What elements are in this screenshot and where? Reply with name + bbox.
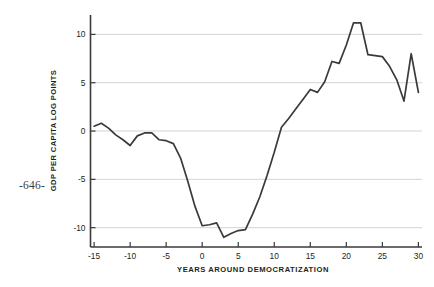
svg-text:0: 0 bbox=[200, 251, 205, 261]
gridlines bbox=[91, 34, 423, 227]
book-page: -646- GDP PER CAPITA LOG POINTS YEARS AR… bbox=[0, 0, 434, 287]
svg-text:-15: -15 bbox=[88, 251, 100, 261]
data-series-line bbox=[94, 23, 418, 238]
svg-text:25: 25 bbox=[378, 251, 388, 261]
y-axis-tick-labels: -10-50510 bbox=[73, 29, 85, 232]
svg-text:-5: -5 bbox=[162, 251, 170, 261]
svg-text:10: 10 bbox=[76, 29, 86, 39]
svg-text:30: 30 bbox=[414, 251, 424, 261]
svg-text:10: 10 bbox=[270, 251, 280, 261]
svg-text:15: 15 bbox=[306, 251, 316, 261]
x-axis-tick-labels: -15-10-5051015202530 bbox=[88, 251, 423, 261]
svg-text:-10: -10 bbox=[73, 223, 85, 233]
svg-text:20: 20 bbox=[342, 251, 352, 261]
svg-text:-5: -5 bbox=[78, 174, 86, 184]
svg-text:5: 5 bbox=[81, 78, 86, 88]
chart-figure: GDP PER CAPITA LOG POINTS YEARS AROUND D… bbox=[0, 0, 434, 287]
svg-text:0: 0 bbox=[81, 126, 86, 136]
svg-text:-10: -10 bbox=[124, 251, 136, 261]
svg-text:5: 5 bbox=[236, 251, 241, 261]
line-chart-plot: -15-10-5051015202530 -10-50510 bbox=[0, 0, 434, 287]
